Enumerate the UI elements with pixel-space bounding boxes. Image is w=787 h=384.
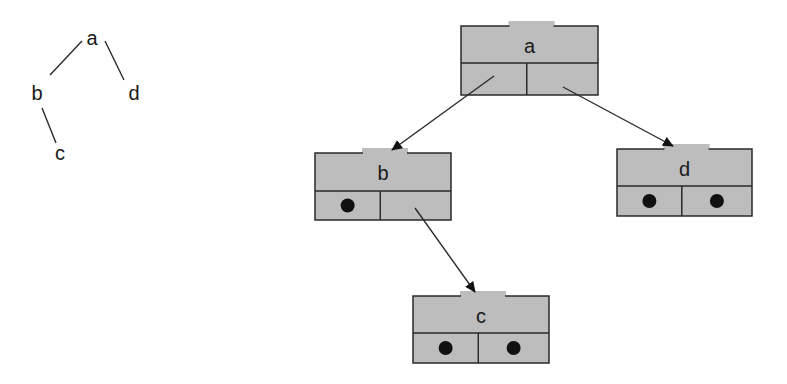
edge-a-b	[50, 41, 82, 75]
edge-a-d	[105, 41, 124, 80]
pointer-arrow-a-left	[392, 76, 494, 150]
null-left-icon	[341, 199, 355, 213]
simple-tree: abdc	[31, 27, 139, 164]
node-label: a	[524, 35, 536, 57]
node-label: b	[377, 162, 388, 184]
simple-node-a: a	[86, 27, 98, 49]
null-left-icon	[642, 194, 656, 208]
node-d: d	[617, 144, 752, 216]
edge-b-c	[42, 108, 56, 143]
simple-node-b: b	[31, 82, 42, 104]
linked-tree: abdc	[315, 21, 752, 363]
pointer-arrow-a-right	[563, 87, 673, 146]
simple-node-c: c	[55, 142, 65, 164]
null-right-icon	[710, 194, 724, 208]
tree-diagram: abdc abdc	[0, 0, 787, 384]
simple-node-d: d	[128, 82, 139, 104]
node-c: c	[413, 291, 549, 363]
null-right-icon	[507, 341, 521, 355]
node-label: c	[476, 305, 486, 327]
null-left-icon	[439, 341, 453, 355]
node-b: b	[315, 148, 451, 220]
node-label: d	[679, 158, 690, 180]
node-a: a	[461, 21, 598, 95]
